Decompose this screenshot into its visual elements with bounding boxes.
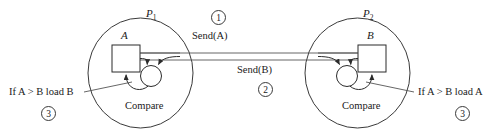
register-label-b: B xyxy=(367,30,374,41)
register-label-a: A xyxy=(121,30,128,41)
process-name-p2: P xyxy=(363,7,370,19)
message-label-send-b: Send(B) xyxy=(237,65,272,76)
diagram-canvas: P1 P2 A B Send(A) Send(B) 1 2 Compare Co… xyxy=(0,0,494,139)
operation-label-compare-p2: Compare xyxy=(342,101,381,112)
step-badge-1: 1 xyxy=(211,10,226,25)
leader-line-condition-p2 xyxy=(366,82,414,92)
edge-channel-to-compare-p2 xyxy=(318,57,340,65)
process-subscript-p2: 2 xyxy=(370,13,374,22)
condition-label-p2: If A > B load A xyxy=(418,87,483,98)
operation-label-compare-p1: Compare xyxy=(125,101,164,112)
process-subscript-p1: 1 xyxy=(153,13,157,22)
message-text-send-b: Send(B) xyxy=(237,64,272,75)
register-box-b xyxy=(358,45,386,72)
leader-line-condition-p1 xyxy=(84,82,132,92)
process-label-p2: P2 xyxy=(363,8,373,22)
compare-node-p2 xyxy=(337,66,358,87)
condition-label-p1: If A > B load B xyxy=(9,87,74,98)
edge-channel-to-compare-p1 xyxy=(159,57,181,65)
edge-a-to-compare xyxy=(140,59,147,65)
process-label-p1: P1 xyxy=(146,8,156,22)
register-box-a xyxy=(112,45,140,72)
message-text-send-a: Send(A) xyxy=(192,30,228,41)
edge-b-to-compare xyxy=(351,59,358,65)
step-badge-3-left: 3 xyxy=(41,106,56,121)
message-label-send-a: Send(A) xyxy=(192,31,228,42)
process-name-p1: P xyxy=(146,7,153,19)
step-badge-2: 2 xyxy=(258,82,273,97)
compare-node-p1 xyxy=(141,66,162,87)
step-badge-3-right: 3 xyxy=(455,106,470,121)
